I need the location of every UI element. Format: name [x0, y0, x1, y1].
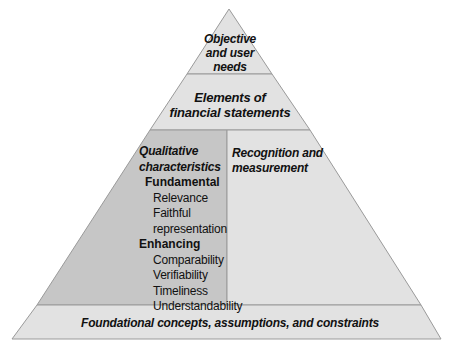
fundamental-heading: Fundamental — [139, 175, 229, 191]
apex-label: Objective and user needs — [189, 32, 271, 74]
qualitative-title: Qualitative — [139, 144, 229, 160]
foundation-label: Foundational concepts, assumptions, and … — [60, 316, 400, 330]
apex-line: Objective — [189, 32, 271, 46]
list-item-understandability: Understandability — [139, 299, 229, 315]
list-item-comparability: Comparability — [139, 253, 229, 269]
list-item-verifiability: Verifiability — [139, 268, 229, 284]
recognition-line: Recognition and — [232, 146, 347, 161]
qualitative-title: characteristics — [139, 160, 229, 176]
elements-label: Elements of financial statements — [160, 90, 300, 120]
list-item-timeliness: Timeliness — [139, 284, 229, 300]
elements-line: financial statements — [160, 105, 300, 120]
list-item-faithful: Faithful — [139, 206, 229, 222]
recognition-label: Recognition and measurement — [232, 146, 347, 176]
elements-line: Elements of — [160, 90, 300, 105]
enhancing-heading: Enhancing — [139, 237, 229, 253]
apex-line: needs — [189, 60, 271, 74]
apex-line: and user — [189, 46, 271, 60]
qualitative-characteristics-block: Qualitative characteristics Fundamental … — [139, 144, 229, 315]
recognition-line: measurement — [232, 161, 347, 176]
list-item-relevance: Relevance — [139, 191, 229, 207]
list-item-representation: representation — [139, 222, 229, 238]
